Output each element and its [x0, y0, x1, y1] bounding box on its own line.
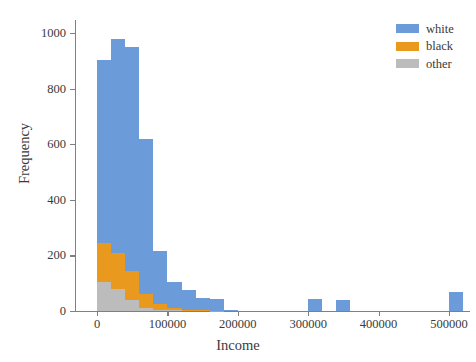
histogram-bar-segment	[224, 310, 238, 311]
legend-label: other	[426, 58, 452, 71]
histogram-bar-segment	[167, 308, 181, 310]
histogram-bar-segment	[139, 308, 153, 311]
histogram-bar-segment	[167, 310, 181, 311]
histogram-bar-segment	[125, 271, 139, 300]
legend-swatch-icon	[396, 59, 419, 68]
legend-item: white	[396, 20, 476, 38]
legend-swatch-icon	[396, 24, 419, 33]
histogram-bar-segment	[182, 310, 196, 311]
histogram-bar-segment	[196, 310, 210, 311]
histogram-chart: 02004006008001000 0100000200000300000400…	[0, 0, 476, 362]
y-axis-title: Frequency	[16, 34, 33, 274]
histogram-bar-segment	[111, 39, 125, 253]
histogram-bar-segment	[153, 310, 167, 311]
x-tick-mark	[167, 311, 168, 316]
y-tick-mark	[70, 200, 75, 201]
legend-item: black	[396, 38, 476, 56]
histogram-bar-segment	[449, 292, 463, 311]
histogram-bar-segment	[153, 251, 167, 304]
y-tick-mark	[70, 89, 75, 90]
x-axis-title: Income	[0, 337, 476, 354]
histogram-bar-segment	[139, 294, 153, 307]
legend: whiteblackother	[396, 20, 476, 73]
y-tick-mark	[70, 144, 75, 145]
histogram-bar-segment	[167, 282, 181, 308]
x-tick-mark	[308, 311, 309, 316]
histogram-bar-segment	[97, 282, 111, 311]
legend-swatch-icon	[396, 42, 419, 51]
legend-item: other	[396, 55, 476, 73]
histogram-bar-segment	[97, 60, 111, 243]
histogram-bar-segment	[210, 299, 224, 311]
histogram-bar-segment	[97, 243, 111, 282]
histogram-bar-segment	[125, 300, 139, 311]
x-tick-mark	[97, 311, 98, 316]
legend-label: black	[426, 40, 453, 53]
histogram-bar-segment	[153, 304, 167, 310]
histogram-bar-segment	[336, 300, 350, 311]
histogram-bar-segment	[182, 290, 196, 309]
y-tick-mark	[70, 33, 75, 34]
histogram-bar-segment	[139, 139, 153, 295]
histogram-bar-segment	[111, 253, 125, 289]
x-tick-mark	[238, 311, 239, 316]
histogram-bar-segment	[308, 299, 322, 312]
y-tick-mark	[70, 311, 75, 312]
histogram-bar-segment	[111, 289, 125, 311]
x-tick-mark	[449, 311, 450, 316]
histogram-bar-segment	[125, 47, 139, 271]
x-tick-mark	[379, 311, 380, 316]
y-tick-mark	[70, 255, 75, 256]
legend-label: white	[426, 23, 454, 36]
x-tick-label: 500000	[404, 317, 476, 332]
histogram-bar-segment	[196, 298, 210, 311]
